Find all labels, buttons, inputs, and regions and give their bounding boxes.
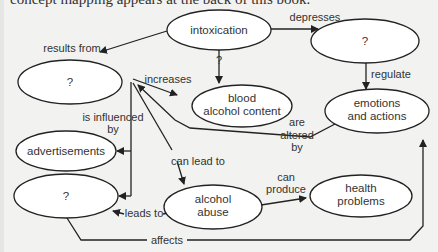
node-intoxication: intoxication (167, 10, 271, 50)
svg-text:health: health (345, 182, 376, 194)
label-affects: affects (151, 234, 184, 246)
concept-map: intoxication ? ? blood alcohol content e… (0, 0, 438, 252)
svg-text:alcohol: alcohol (195, 193, 231, 205)
node-health-problems: health problems (310, 175, 412, 217)
node-advertisements: advertisements (16, 131, 116, 171)
label-results-from: results from (43, 42, 100, 54)
svg-text:blood: blood (228, 92, 256, 104)
svg-text:problems: problems (337, 195, 385, 207)
svg-text:?: ? (362, 35, 368, 47)
svg-text:and actions: and actions (348, 110, 407, 122)
node-alcohol-abuse: alcohol abuse (164, 185, 262, 229)
label-unknown-link: ? (216, 54, 222, 66)
node-emotions-and-actions: emotions and actions (325, 89, 429, 133)
svg-text:alcohol content: alcohol content (203, 105, 281, 117)
svg-text:emotions: emotions (354, 97, 401, 109)
label-by: by (291, 141, 303, 153)
label-influenced-by: by (107, 123, 119, 135)
label-increases: increases (144, 73, 192, 85)
svg-text:abuse: abuse (197, 206, 228, 218)
label-altered: altered (280, 129, 314, 141)
label-leads-to: leads to (125, 207, 164, 219)
label-can-lead-to: can lead to (171, 155, 225, 167)
node-unknown-left: ? (18, 60, 122, 104)
svg-text:?: ? (63, 190, 69, 202)
label-regulate: regulate (371, 68, 411, 80)
svg-text:advertisements: advertisements (27, 145, 105, 157)
svg-text:intoxication: intoxication (190, 24, 248, 36)
label-produce: produce (266, 183, 306, 195)
label-are: are (289, 116, 305, 128)
label-is-influenced: is influenced (82, 111, 143, 123)
label-depresses: depresses (290, 11, 341, 23)
label-can: can (277, 171, 295, 183)
node-unknown-top-right: ? (311, 19, 419, 63)
svg-text:?: ? (67, 76, 73, 88)
node-unknown-lower-left: ? (14, 174, 118, 218)
node-blood-alcohol-content: blood alcohol content (192, 85, 292, 127)
